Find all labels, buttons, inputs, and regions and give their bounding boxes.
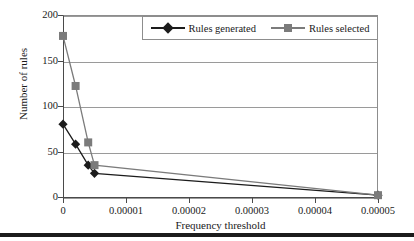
chart-figure: 200 150 100 50 0 Number of rules 0 0.000… [0,0,414,241]
xtick-label-5: 0.00005 [348,205,408,216]
xtick-label-3: 0.00003 [222,205,282,216]
xtick-label-1: 0.00001 [96,205,156,216]
ytick-label-50: 50 [48,147,59,157]
ytick-label-200: 200 [42,10,58,20]
ytick-label-150: 150 [42,56,58,66]
legend-swatch-diamond-icon [151,22,185,34]
x-axis-title: Frequency threshold [63,219,378,231]
xtick-mark-3 [252,198,253,203]
gridline-0 [64,198,377,199]
ytick-mark-200 [58,15,63,16]
xtick-mark-4 [315,198,316,203]
xtick-label-2: 0.00002 [159,205,219,216]
xtick-label-0: 0 [43,205,83,216]
gridline-50 [64,153,377,154]
xtick-mark-2 [189,198,190,203]
ytick-label-100: 100 [42,101,58,111]
xtick-mark-5 [378,198,379,203]
ytick-mark-100 [58,106,63,107]
legend-swatch-square-icon [271,22,305,34]
legend-entry-rules-generated: Rules generated [151,22,256,34]
legend-label-rules-generated: Rules generated [189,23,256,34]
legend-label-rules-selected: Rules selected [309,23,369,34]
plot-area [63,15,378,198]
diamond-marker-icon [162,22,173,33]
ytick-mark-150 [58,61,63,62]
square-marker-icon [284,24,292,32]
bottom-rule [0,233,414,237]
y-axis-title: Number of rules [17,14,29,154]
gridline-150 [64,62,377,63]
xtick-label-4: 0.00004 [285,205,345,216]
ytick-mark-50 [58,152,63,153]
legend-entry-rules-selected: Rules selected [271,22,369,34]
xtick-mark-1 [126,198,127,203]
chart-legend: Rules generated Rules selected [142,16,378,40]
gridline-100 [64,107,377,108]
xtick-mark-0 [63,198,64,203]
ytick-label-0: 0 [53,192,58,202]
